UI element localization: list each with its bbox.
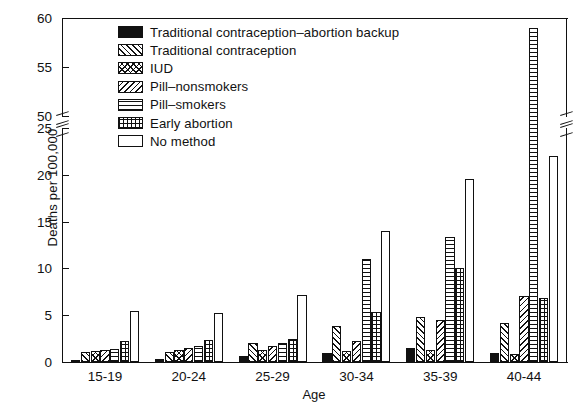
legend-swatch-horizontal-lines: [118, 99, 143, 111]
legend-label-4: Pill–smokers: [150, 97, 226, 112]
legend-swatch-reverse-diagonal-hatch: [118, 81, 143, 93]
bar-35-39-horizontal-lines: [445, 237, 454, 362]
legend-item-1[interactable]: Traditional contraception: [118, 41, 399, 59]
bar-20-24-cross-hatch: [174, 350, 183, 362]
bar-30-34-cross-hatch: [342, 351, 351, 362]
bar-15-19-empty-white: [130, 311, 139, 362]
legend-label-0: Traditional contraception–abortion backu…: [150, 25, 399, 40]
x-tick-label-30-34: 30-34: [339, 369, 374, 384]
bar-40-44-empty-white: [549, 156, 558, 362]
legend-item-2[interactable]: IUD: [118, 59, 399, 77]
bar-20-24-diagonal-hatch: [165, 352, 174, 362]
legend-label-1: Traditional contraception: [150, 43, 296, 58]
bar-15-19-cross-hatch: [91, 351, 100, 362]
legend-label-5: Early abortion: [150, 116, 233, 131]
bar-15-19-fine-grid: [120, 341, 129, 362]
right-frame-upper: [566, 18, 567, 117]
y-tick-mark-0: [63, 362, 69, 363]
bar-35-39-reverse-diagonal-hatch: [436, 320, 445, 362]
y-tick-label-55: 55: [37, 60, 52, 75]
bar-25-29-solid-black: [239, 356, 248, 362]
chart-legend: Traditional contraception–abortion backu…: [118, 23, 399, 150]
legend-swatch-fine-grid: [118, 117, 143, 129]
legend-item-4[interactable]: Pill–smokers: [118, 96, 399, 114]
bar-40-44-reverse-diagonal-hatch: [519, 296, 528, 362]
y-tick-label-25: 25: [37, 121, 52, 136]
x-tick-label-40-44: 40-44: [507, 369, 542, 384]
bar-20-24-horizontal-lines: [194, 346, 203, 362]
bar-30-34-fine-grid: [371, 312, 380, 362]
bar-15-19-diagonal-hatch: [81, 352, 90, 362]
bar-35-39-solid-black: [406, 348, 415, 362]
bar-20-24-empty-white: [214, 313, 223, 362]
bar-30-34-diagonal-hatch: [332, 326, 341, 362]
bar-35-39-empty-white: [465, 179, 474, 362]
legend-swatch-cross-hatch: [118, 62, 143, 74]
bar-40-44-solid-black: [490, 353, 499, 362]
bar-40-44-horizontal-lines: [529, 28, 538, 362]
x-tick-label-25-29: 25-29: [255, 369, 290, 384]
legend-label-6: No method: [150, 134, 215, 149]
bar-20-24-solid-black: [155, 359, 164, 362]
bar-30-34-solid-black: [322, 353, 331, 362]
bar-30-34-horizontal-lines: [362, 259, 371, 362]
legend-swatch-diagonal-hatch: [118, 44, 143, 56]
y-tick-label-10: 10: [37, 261, 52, 276]
bar-35-39-fine-grid: [455, 268, 464, 362]
x-tick-label-15-19: 15-19: [88, 369, 123, 384]
bar-35-39-diagonal-hatch: [416, 317, 425, 362]
legend-item-5[interactable]: Early abortion: [118, 114, 399, 132]
y-tick-label-15: 15: [37, 214, 52, 229]
bar-15-19-solid-black: [71, 360, 80, 362]
y-tick-label-60: 60: [37, 11, 52, 26]
x-tick-label-35-39: 35-39: [423, 369, 458, 384]
bar-15-19-horizontal-lines: [110, 349, 119, 362]
right-frame-lower: [566, 128, 567, 363]
bar-35-39-cross-hatch: [426, 350, 435, 362]
legend-label-3: Pill–nonsmokers: [150, 79, 248, 94]
bar-40-44-diagonal-hatch: [500, 323, 509, 362]
x-axis-title: Age: [302, 387, 325, 402]
legend-item-6[interactable]: No method: [118, 132, 399, 150]
bar-30-34-reverse-diagonal-hatch: [352, 341, 361, 362]
legend-item-3[interactable]: Pill–nonsmokers: [118, 78, 399, 96]
bar-25-29-empty-white: [297, 295, 306, 362]
bar-25-29-diagonal-hatch: [248, 343, 257, 362]
bar-40-44-fine-grid: [539, 298, 548, 362]
legend-swatch-solid-black: [118, 26, 143, 38]
bar-25-29-horizontal-lines: [278, 343, 287, 362]
y-tick-label-5: 5: [44, 308, 52, 323]
legend-swatch-empty-white: [118, 135, 143, 147]
bar-40-44-cross-hatch: [510, 354, 519, 362]
x-axis-line: [62, 362, 568, 363]
bar-20-24-reverse-diagonal-hatch: [184, 348, 193, 362]
y-tick-label-0: 0: [44, 355, 52, 370]
bar-30-34-empty-white: [381, 231, 390, 362]
y-axis-title: Deaths per 100,000: [45, 128, 60, 248]
bar-20-24-fine-grid: [204, 340, 213, 362]
bar-25-29-cross-hatch: [258, 350, 267, 362]
legend-item-0[interactable]: Traditional contraception–abortion backu…: [118, 23, 399, 41]
bar-25-29-fine-grid: [288, 339, 297, 362]
bar-15-19-reverse-diagonal-hatch: [100, 350, 109, 362]
x-tick-label-20-24: 20-24: [171, 369, 206, 384]
y-tick-label-20: 20: [37, 167, 52, 182]
legend-label-2: IUD: [150, 61, 173, 76]
bar-25-29-reverse-diagonal-hatch: [268, 346, 277, 362]
